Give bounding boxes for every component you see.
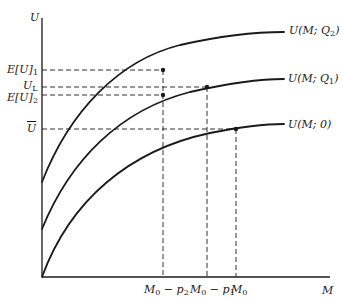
point-UL (205, 85, 209, 89)
curve-label-zero: U(M; 0) (288, 119, 331, 130)
y-axis-label: U (30, 12, 39, 23)
x-label-M0-p1: M0 − p1 (190, 284, 235, 297)
y-label-Ubar: U (27, 123, 36, 134)
point-EU2 (161, 93, 165, 97)
y-label-EU2: E[U]2 (7, 92, 38, 105)
point-Ubar (234, 127, 238, 131)
y-label-EU1: E[U]1 (7, 64, 38, 77)
point-EU1 (161, 68, 165, 72)
curve-label-Q1: U(M; Q1) (288, 73, 338, 86)
x-axis-label: M (322, 285, 333, 296)
x-label-M0-p2: M0 − p2 (144, 284, 189, 297)
x-label-M0: M0 (231, 284, 247, 297)
curve-label-Q2: U(M; Q2) (289, 25, 339, 38)
utility-diagram (0, 0, 343, 301)
